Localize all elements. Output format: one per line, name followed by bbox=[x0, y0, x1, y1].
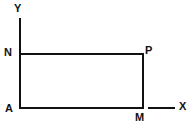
figure-canvas bbox=[0, 0, 195, 130]
vertex-label-p: P bbox=[145, 45, 152, 56]
geometry-figure: Y N P A M X bbox=[0, 0, 195, 130]
x-axis-label: X bbox=[179, 101, 186, 112]
y-axis-label: Y bbox=[14, 3, 21, 14]
vertex-label-a: A bbox=[5, 103, 13, 114]
vertex-label-m: M bbox=[135, 112, 144, 123]
vertex-label-n: N bbox=[4, 47, 12, 58]
